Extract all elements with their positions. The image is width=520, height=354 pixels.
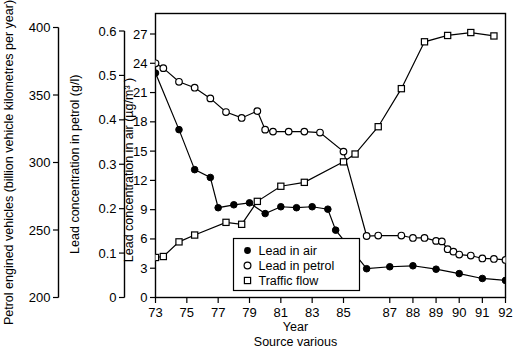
marker-filled-circle bbox=[262, 210, 269, 217]
marker-open-square bbox=[421, 39, 427, 45]
marker-open-circle bbox=[375, 232, 382, 239]
marker-open-circle bbox=[301, 128, 308, 135]
y-tick-label: 0.2 bbox=[98, 201, 116, 216]
marker-open-circle bbox=[502, 257, 509, 264]
y-tick-label: 0.3 bbox=[98, 157, 116, 172]
marker-filled-circle bbox=[215, 204, 222, 211]
marker-open-circle bbox=[479, 255, 486, 262]
marker-open-circle bbox=[439, 238, 446, 245]
axis-petrol-vehicles: 200250300350400Petrol engined vehicles (… bbox=[2, 0, 59, 325]
marker-filled-circle bbox=[231, 201, 238, 208]
marker-open-square bbox=[445, 32, 451, 38]
marker-open-square bbox=[491, 33, 497, 39]
legend-marker-filled-circle bbox=[244, 247, 251, 254]
marker-open-square bbox=[176, 239, 182, 245]
marker-filled-circle bbox=[325, 206, 332, 213]
marker-filled-circle bbox=[502, 277, 509, 284]
marker-filled-circle bbox=[386, 263, 393, 270]
marker-open-circle bbox=[467, 252, 474, 259]
marker-open-circle bbox=[191, 84, 198, 91]
marker-open-circle bbox=[456, 251, 463, 258]
y-tick-label: 400 bbox=[29, 20, 51, 35]
marker-open-circle bbox=[262, 126, 269, 133]
axis-title: Petrol engined vehicles (billion vehicle… bbox=[2, 0, 16, 325]
marker-open-square bbox=[301, 179, 307, 185]
x-tick-label: 87 bbox=[383, 305, 397, 320]
marker-open-square bbox=[468, 29, 474, 35]
y-tick-label: 0.4 bbox=[98, 112, 116, 127]
y-tick-label: 350 bbox=[29, 88, 51, 103]
legend: Lead in airLead in petrolTraffic flow bbox=[234, 239, 360, 291]
marker-filled-circle bbox=[410, 262, 417, 269]
marker-open-square bbox=[160, 253, 166, 259]
marker-open-circle bbox=[160, 65, 167, 72]
y-tick-label: 250 bbox=[29, 223, 51, 238]
marker-open-circle bbox=[491, 256, 498, 263]
marker-open-square bbox=[152, 254, 158, 260]
y-tick-label: 0.1 bbox=[98, 246, 116, 261]
x-axis: 73757779818385878889909192 bbox=[148, 298, 512, 320]
x-tick-label: 89 bbox=[429, 305, 443, 320]
y-tick-label: 3 bbox=[140, 261, 147, 276]
marker-open-square bbox=[375, 124, 381, 130]
y-tick-label: 9 bbox=[140, 202, 147, 217]
marker-filled-circle bbox=[332, 227, 339, 234]
marker-filled-circle bbox=[152, 70, 159, 77]
y-tick-label: 0.6 bbox=[98, 24, 116, 39]
x-tick-label: 85 bbox=[336, 305, 350, 320]
marker-open-square bbox=[192, 232, 198, 238]
y-tick-label: 300 bbox=[29, 155, 51, 170]
y-tick-label: 0 bbox=[109, 290, 116, 305]
axis-title: Lead concentration in petrol (g/l) bbox=[68, 75, 82, 254]
marker-open-circle bbox=[223, 109, 230, 116]
marker-open-square bbox=[278, 183, 284, 189]
marker-filled-circle bbox=[207, 174, 214, 181]
x-tick-label: 77 bbox=[211, 305, 225, 320]
chart-canvas: 73757779818385878889909192YearSource var… bbox=[0, 0, 520, 354]
x-tick-label: 73 bbox=[148, 305, 162, 320]
legend-marker-open-circle bbox=[244, 262, 251, 269]
marker-open-square bbox=[239, 221, 245, 227]
marker-open-circle bbox=[285, 128, 292, 135]
marker-open-circle bbox=[254, 108, 261, 115]
marker-open-circle bbox=[270, 128, 277, 135]
marker-filled-circle bbox=[293, 204, 300, 211]
x-axis-title: Year bbox=[283, 320, 308, 334]
marker-filled-circle bbox=[246, 200, 253, 207]
legend-label: Traffic flow bbox=[259, 274, 320, 288]
axis-lead-in-air: 0369121518212427Lead concentration in ai… bbox=[122, 27, 156, 306]
marker-open-square bbox=[398, 86, 404, 92]
x-tick-label: 81 bbox=[274, 305, 288, 320]
chart-figure: 73757779818385878889909192YearSource var… bbox=[0, 0, 520, 354]
y-tick-label: 200 bbox=[29, 290, 51, 305]
marker-open-circle bbox=[340, 148, 347, 155]
marker-filled-circle bbox=[176, 126, 183, 133]
marker-open-square bbox=[223, 219, 229, 225]
source-note: Source various bbox=[254, 335, 337, 349]
marker-open-circle bbox=[207, 95, 214, 102]
x-tick-label: 91 bbox=[475, 305, 489, 320]
marker-filled-circle bbox=[191, 166, 198, 173]
x-tick-label: 83 bbox=[305, 305, 319, 320]
marker-filled-circle bbox=[278, 203, 285, 210]
y-tick-label: 27 bbox=[133, 27, 147, 42]
marker-filled-circle bbox=[479, 275, 486, 282]
marker-filled-circle bbox=[363, 265, 370, 272]
marker-open-circle bbox=[238, 115, 245, 122]
y-tick-label: 0 bbox=[140, 290, 147, 305]
y-tick-label: 0.5 bbox=[98, 68, 116, 83]
marker-open-circle bbox=[410, 235, 417, 242]
marker-filled-circle bbox=[309, 203, 316, 210]
marker-open-circle bbox=[317, 129, 324, 136]
marker-filled-circle bbox=[456, 270, 463, 277]
marker-open-circle bbox=[176, 79, 183, 86]
marker-filled-circle bbox=[433, 266, 440, 273]
x-tick-label: 92 bbox=[498, 305, 512, 320]
marker-open-circle bbox=[398, 232, 405, 239]
x-tick-label: 79 bbox=[242, 305, 256, 320]
x-tick-label: 88 bbox=[406, 305, 420, 320]
y-tick-label: 6 bbox=[140, 231, 147, 246]
marker-open-square bbox=[340, 159, 346, 165]
x-tick-label: 75 bbox=[180, 305, 194, 320]
marker-open-circle bbox=[363, 233, 370, 240]
